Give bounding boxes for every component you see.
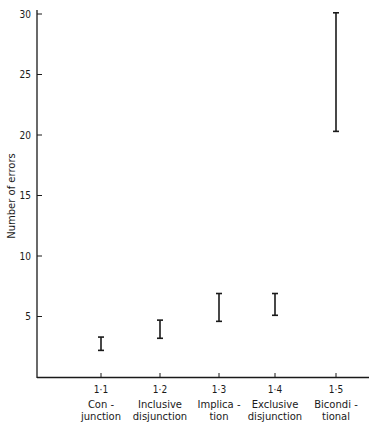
y-tick-label: 25 — [20, 69, 31, 80]
x-category-label: Con - — [88, 399, 115, 410]
x-tick-code: 1·1 — [94, 384, 108, 395]
y-tick-label: 10 — [20, 251, 32, 262]
x-category-label: Bicondi - — [314, 399, 358, 410]
x-category-label: disjunction — [133, 411, 187, 422]
error-bar-3 — [216, 294, 222, 322]
x-category-label: junction — [80, 411, 121, 422]
error-bar-4 — [272, 294, 278, 316]
error-bar-1 — [98, 337, 104, 350]
x-category-label: disjunction — [248, 411, 302, 422]
x-ticks: 1·1Con -junction1·2Inclusivedisjunction1… — [80, 373, 358, 422]
x-category-label: Inclusive — [138, 399, 182, 410]
error-bar-chart: 51015202530 1·1Con -junction1·2Inclusive… — [0, 0, 379, 426]
y-tick-label: 30 — [20, 9, 32, 20]
x-tick-code: 1·4 — [268, 384, 283, 395]
x-category-label: Implica - — [197, 399, 240, 410]
x-category-label: tional — [322, 411, 350, 422]
x-tick-code: 1·5 — [329, 384, 343, 395]
error-bar-2 — [157, 320, 163, 338]
y-ticks: 51015202530 — [20, 9, 42, 323]
y-axis-title: Number of errors — [6, 153, 17, 239]
y-tick-label: 20 — [20, 130, 32, 141]
x-tick-code: 1·3 — [212, 384, 226, 395]
error-bars — [98, 13, 339, 351]
y-tick-label: 15 — [20, 190, 31, 201]
x-tick-code: 1·2 — [153, 384, 167, 395]
error-bar-5 — [333, 13, 339, 132]
axes — [37, 10, 369, 378]
x-category-label: tion — [209, 411, 228, 422]
y-tick-label: 5 — [25, 311, 31, 322]
x-category-label: Exclusive — [252, 399, 299, 410]
